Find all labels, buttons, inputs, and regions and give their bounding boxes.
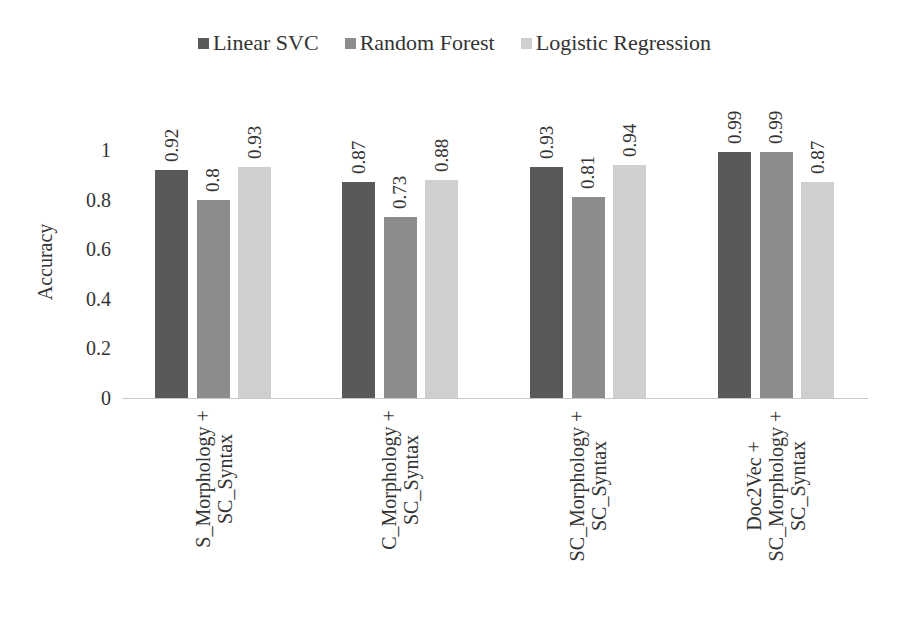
y-tick-label: 0.4 <box>86 287 111 310</box>
y-axis-title: Accuracy <box>34 224 57 301</box>
bar-random-forest <box>384 217 417 398</box>
bar-random-forest <box>572 197 605 398</box>
bar-value-label: 0.73 <box>389 176 411 209</box>
legend-swatch-logistic-regression <box>521 38 532 49</box>
legend-swatch-linear-svc <box>198 38 209 49</box>
y-tick-label: 0.2 <box>86 337 111 360</box>
bar-linear-svc <box>342 182 375 398</box>
legend: Linear SVC Random Forest Logistic Regres… <box>0 30 909 56</box>
bar-value-label: 0.87 <box>807 141 829 174</box>
legend-label: Logistic Regression <box>536 30 711 56</box>
bar-random-forest <box>197 200 230 398</box>
legend-item-linear-svc: Linear SVC <box>198 30 319 56</box>
bar-value-label: 0.8 <box>202 168 224 192</box>
bar-value-label: 0.99 <box>765 111 787 144</box>
legend-item-logistic-regression: Logistic Regression <box>521 30 711 56</box>
bar-value-label: 0.88 <box>431 139 453 172</box>
bar-value-label: 0.93 <box>536 126 558 159</box>
bar-random-forest <box>760 152 793 398</box>
bar-value-label: 0.93 <box>244 126 266 159</box>
x-tick-label: Doc2Vec +SC_Morphology +SC_Syntax <box>743 410 809 561</box>
legend-swatch-random-forest <box>345 38 356 49</box>
bar-value-label: 0.92 <box>161 129 183 162</box>
legend-label: Random Forest <box>360 30 495 56</box>
y-tick-label: 1 <box>101 139 111 162</box>
x-tick-label: S_Morphology +SC_Syntax <box>191 410 235 547</box>
bar-value-label: 0.81 <box>577 156 599 189</box>
y-tick-label: 0.6 <box>86 238 111 261</box>
bar-value-label: 0.99 <box>724 111 746 144</box>
legend-label: Linear SVC <box>213 30 319 56</box>
y-tick-label: 0.8 <box>86 188 111 211</box>
legend-item-random-forest: Random Forest <box>345 30 495 56</box>
bar-linear-svc <box>530 167 563 398</box>
bar-logistic-regression <box>238 167 271 398</box>
y-tick-label: 0 <box>101 387 111 410</box>
bar-linear-svc <box>718 152 751 398</box>
bar-logistic-regression <box>425 180 458 398</box>
x-axis-line <box>122 398 868 399</box>
x-tick-label: SC_Morphology +SC_Syntax <box>566 410 610 561</box>
bar-value-label: 0.87 <box>348 141 370 174</box>
bar-value-label: 0.94 <box>619 124 641 157</box>
x-tick-label: C_Morphology +SC_Syntax <box>378 410 422 550</box>
bar-linear-svc <box>155 170 188 398</box>
bar-logistic-regression <box>613 165 646 398</box>
bar-logistic-regression <box>801 182 834 398</box>
